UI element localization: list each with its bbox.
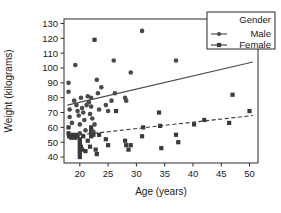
data-point-female (157, 110, 161, 114)
data-point-female (176, 140, 180, 144)
data-point-male (83, 128, 88, 133)
x-tick-label: 25 (103, 168, 114, 179)
data-point-female (78, 155, 82, 159)
x-tick-label: 40 (188, 168, 199, 179)
data-point-male (88, 112, 93, 117)
data-point-male (90, 116, 95, 121)
y-axis-label: Weight (kilograms) (3, 49, 14, 132)
y-tick-label: 120 (42, 33, 58, 44)
data-point-male (96, 91, 101, 96)
data-point-male (76, 113, 81, 118)
data-point-male (78, 122, 83, 127)
data-point-male (140, 29, 145, 34)
trend-line-male (67, 62, 253, 105)
y-tick-label: 90 (47, 77, 58, 88)
y-tick-label: 40 (47, 151, 58, 162)
data-point-female (140, 134, 144, 138)
y-axis-tick-group: 405060708090100110120130 (42, 18, 64, 163)
chart-container: 405060708090100110120130 20253035404550 … (0, 0, 281, 213)
data-point-male (66, 81, 71, 86)
data-point-male (111, 58, 116, 63)
data-point-female (174, 133, 178, 137)
data-point-male (80, 106, 85, 111)
data-point-female (92, 38, 96, 42)
data-point-female (114, 109, 118, 113)
x-tick-label: 50 (244, 168, 255, 179)
data-point-male (82, 118, 87, 123)
y-tick-label: 130 (42, 18, 58, 29)
data-point-male (73, 63, 78, 68)
y-tick-label: 110 (43, 48, 58, 59)
y-tick-label: 70 (47, 107, 58, 118)
data-point-female (124, 143, 128, 147)
legend-label-male: Male (250, 28, 271, 39)
data-point-female (126, 148, 130, 152)
y-tick-label: 60 (47, 122, 58, 133)
data-point-male (174, 58, 179, 63)
x-axis-tick-group: 20253035404550 (75, 163, 255, 179)
data-point-female (227, 121, 231, 125)
x-tick-label: 35 (159, 168, 170, 179)
x-axis-label: Age (years) (135, 186, 187, 197)
data-point-female (83, 149, 87, 153)
data-point-female (95, 152, 99, 156)
legend-label-female: Female (239, 39, 271, 50)
data-point-male (72, 98, 77, 103)
scatter-plot: 405060708090100110120130 20253035404550 … (0, 0, 281, 213)
data-point-female (106, 143, 110, 147)
data-point-female (66, 125, 70, 129)
data-point-male (75, 109, 80, 114)
data-point-male (106, 109, 111, 114)
data-point-female (104, 137, 108, 141)
data-point-female (192, 122, 196, 126)
legend-marker-female (217, 43, 221, 47)
x-tick-label: 45 (216, 168, 227, 179)
data-point-female (202, 118, 206, 122)
data-point-male (79, 95, 84, 100)
data-point-male (99, 85, 104, 90)
y-tick-label: 100 (42, 62, 58, 73)
data-point-male (66, 89, 71, 94)
data-point-female (129, 143, 133, 147)
data-point-male (124, 98, 129, 103)
legend-title: Gender (239, 14, 271, 25)
data-point-male (128, 70, 133, 75)
data-point-male (89, 104, 94, 109)
data-point-male (67, 107, 72, 112)
data-point-female (247, 109, 251, 113)
x-tick-label: 20 (75, 168, 86, 179)
data-point-female (123, 139, 127, 143)
legend: Gender MaleFemale (207, 12, 275, 50)
data-point-male (109, 98, 114, 103)
data-point-female (94, 148, 98, 152)
data-point-male (97, 107, 102, 112)
data-point-female (88, 145, 92, 149)
data-point-female (86, 139, 90, 143)
data-point-male (67, 115, 72, 120)
y-tick-label: 50 (47, 137, 58, 148)
legend-marker-male (217, 32, 221, 36)
data-point-male (92, 122, 97, 127)
data-point-male (81, 110, 86, 115)
data-point-male (104, 103, 109, 108)
x-tick-label: 30 (131, 168, 142, 179)
male-data-points (66, 29, 178, 136)
y-tick-label: 80 (47, 92, 58, 103)
data-point-female (230, 93, 234, 97)
data-point-male (95, 78, 100, 83)
data-point-male (70, 121, 75, 126)
data-point-female (159, 146, 163, 150)
